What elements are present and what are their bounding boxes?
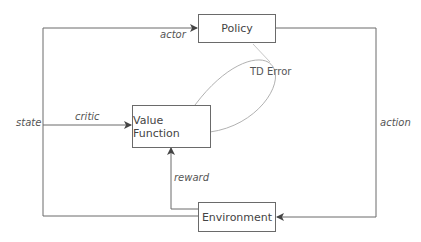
value-function-node: Value Function — [132, 105, 211, 148]
actor-label: actor — [160, 29, 186, 40]
td-error-connector — [253, 44, 270, 62]
environment-node: Environment — [198, 202, 276, 232]
action-line — [275, 28, 376, 217]
action-label: action — [380, 117, 411, 128]
td-error-label: TD Error — [250, 66, 291, 77]
policy-node: Policy — [198, 14, 276, 43]
critic-label: critic — [75, 111, 100, 122]
policy-label: Policy — [221, 22, 253, 35]
environment-label: Environment — [202, 211, 272, 224]
state-label: state — [16, 117, 41, 128]
reward-label: reward — [174, 172, 209, 183]
value-function-label: Value Function — [133, 114, 210, 140]
